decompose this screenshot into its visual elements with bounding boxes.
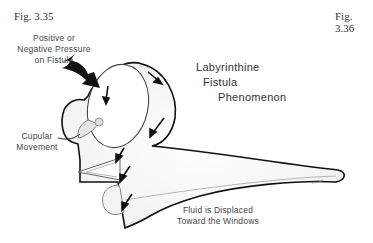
labyrinth-diagram: Hl.Gor [0,0,373,243]
pressure-arrow-icon [62,52,100,88]
